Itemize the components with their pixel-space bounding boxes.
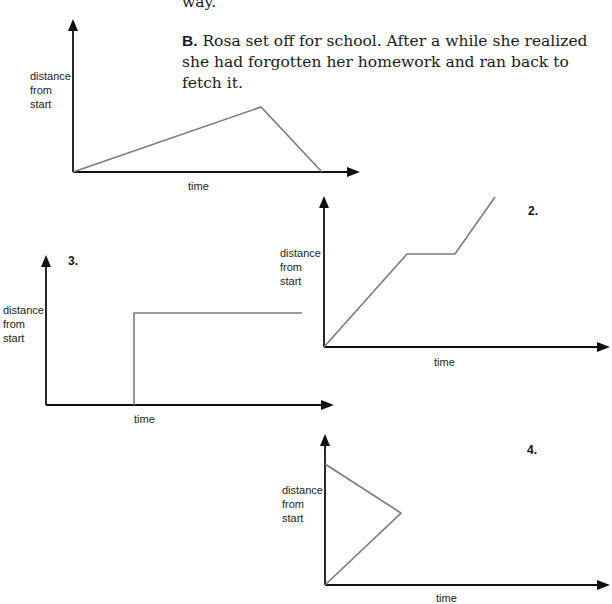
y-axis-arrow-icon <box>320 434 330 446</box>
y-axis-label: distance <box>30 70 71 82</box>
graph-b: distance from start time <box>30 19 360 192</box>
graph-2: distance from start time 2. <box>280 196 610 368</box>
graph-number: 2. <box>528 204 538 218</box>
y-axis-label: distance <box>3 304 44 316</box>
y-axis-label: distance <box>280 247 321 259</box>
y-axis-label-2: from <box>282 498 304 510</box>
x-axis-arrow-icon <box>347 167 360 177</box>
x-axis-arrow-icon <box>597 342 610 352</box>
y-axis-label-3: start <box>30 98 51 110</box>
x-axis-label: time <box>188 180 209 192</box>
y-axis-label-2: from <box>280 261 302 273</box>
x-axis-arrow-icon <box>597 580 610 590</box>
graph-number: 3. <box>68 254 78 268</box>
y-axis-label: distance <box>282 484 323 496</box>
y-axis-label-3: start <box>280 275 301 287</box>
y-axis-label-3: start <box>3 332 24 344</box>
y-axis-arrow-icon <box>68 19 78 31</box>
graph-line <box>325 464 401 585</box>
graph-number: 4. <box>527 443 537 457</box>
x-axis-label: time <box>134 413 155 425</box>
graph-line <box>324 197 495 347</box>
y-axis-label-3: start <box>282 512 303 524</box>
worksheet-page: way. B. Rosa set off for school. After a… <box>0 0 612 604</box>
x-axis-label: time <box>434 356 455 368</box>
y-axis-label-2: from <box>3 318 25 330</box>
y-axis-arrow-icon <box>319 196 329 208</box>
graph-line <box>73 107 322 172</box>
x-axis-arrow-icon <box>321 400 334 410</box>
x-axis-label: time <box>436 592 457 604</box>
y-axis-arrow-icon <box>41 255 51 267</box>
graphs-canvas: distance from start time distance from s… <box>0 0 612 604</box>
graph-4: distance from start time 4. <box>282 434 610 604</box>
y-axis-label-2: from <box>30 84 52 96</box>
graph-line <box>134 313 302 405</box>
